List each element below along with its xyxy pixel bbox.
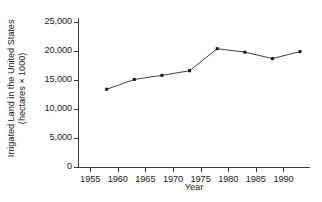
x-axis-tick (283, 168, 284, 172)
y-axis-tick-label: 10,000 (44, 103, 72, 113)
data-point (271, 57, 274, 60)
y-axis-title-line-1: Irrigated Land in the United States (7, 19, 17, 157)
chart-figure: Irrigated Land in the United States (hec… (0, 0, 322, 202)
data-point (216, 47, 219, 50)
data-point (105, 88, 108, 91)
data-series (78, 22, 310, 167)
y-axis-tick-label: 20,000 (44, 45, 72, 55)
data-point (133, 78, 136, 81)
x-axis-tick (118, 168, 119, 172)
data-point (299, 50, 302, 53)
data-point (188, 69, 191, 72)
x-axis-title: Year (78, 182, 310, 192)
series-markers (105, 47, 301, 91)
data-point (160, 74, 163, 77)
x-axis-tick (201, 168, 202, 172)
series-line (107, 49, 300, 90)
x-axis-tick (256, 168, 257, 172)
y-axis-tick-label: 0 (67, 161, 72, 171)
x-axis-tick (228, 168, 229, 172)
x-axis-line (78, 167, 310, 168)
y-axis-tick-label: 5,000 (50, 132, 73, 142)
x-axis-tick (90, 168, 91, 172)
x-axis-tick (173, 168, 174, 172)
y-axis-tick (74, 167, 78, 168)
data-point (243, 51, 246, 54)
x-axis-tick (145, 168, 146, 172)
plot-area: 05,00010,00015,00020,00025,000 195519601… (78, 22, 310, 167)
y-axis-title: Irrigated Land in the United States (hec… (0, 0, 36, 176)
y-axis-tick-label: 15,000 (44, 74, 72, 84)
y-axis-tick-label: 25,000 (44, 16, 72, 26)
y-axis-title-line-2: (hectares × 1000) (18, 19, 29, 157)
